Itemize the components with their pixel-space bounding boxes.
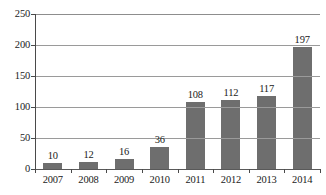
bar [43, 163, 62, 169]
bar [79, 162, 98, 169]
bar-value-label: 16 [104, 147, 144, 158]
x-tick-label: 2009 [104, 175, 144, 186]
y-axis-line [35, 14, 36, 170]
bar [257, 96, 276, 169]
bar-value-label: 10 [33, 151, 73, 162]
y-tick-50 [31, 138, 35, 139]
y-tick-label: 0 [25, 164, 30, 175]
bar-value-label: 12 [68, 150, 108, 161]
x-tick-label: 2012 [211, 175, 251, 186]
y-tick-100 [31, 107, 35, 108]
bar [115, 159, 134, 169]
x-tick-label: 2008 [68, 175, 108, 186]
bar [186, 102, 205, 169]
bar [221, 100, 240, 169]
x-tick [284, 169, 285, 173]
y-tick-250 [31, 14, 35, 15]
y-tick-150 [31, 76, 35, 77]
bar-chart: 050100150200250 10121636108112117197 200… [0, 0, 326, 195]
x-tick [106, 169, 107, 173]
bar [293, 47, 312, 169]
bar-value-label: 112 [211, 88, 251, 99]
x-tick-label: 2013 [247, 175, 287, 186]
x-tick-label: 2011 [175, 175, 215, 186]
y-tick-label: 250 [15, 9, 30, 20]
x-tick [320, 169, 321, 173]
x-tick [35, 169, 36, 173]
x-tick-label: 2010 [140, 175, 180, 186]
bar [150, 147, 169, 169]
y-tick-label: 100 [15, 102, 30, 113]
bar-value-label: 117 [247, 84, 287, 95]
y-tick-label: 50 [20, 133, 30, 144]
x-tick-label: 2014 [282, 175, 322, 186]
bar-value-label: 36 [140, 135, 180, 146]
bar-value-label: 197 [282, 35, 322, 46]
x-tick [71, 169, 72, 173]
y-tick-label: 200 [15, 40, 30, 51]
x-tick [213, 169, 214, 173]
y-tick-200 [31, 45, 35, 46]
x-tick [142, 169, 143, 173]
x-tick [178, 169, 179, 173]
x-tick-label: 2007 [33, 175, 73, 186]
y-tick-label: 150 [15, 71, 30, 82]
x-tick [249, 169, 250, 173]
bar-value-label: 108 [175, 90, 215, 101]
